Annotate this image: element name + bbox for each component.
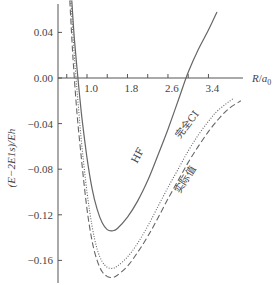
y-tick-label: −0.04 bbox=[28, 118, 54, 130]
x-tick-label: 1.0 bbox=[84, 82, 98, 94]
axes: 0.040.00−0.04−0.08−0.12−0.16 1.01.82.63.… bbox=[28, 4, 243, 283]
x-ticks: 1.01.82.63.4 bbox=[67, 74, 220, 94]
potential-energy-chart: 0.040.00−0.04−0.08−0.12−0.16 1.01.82.63.… bbox=[0, 0, 277, 285]
label-actual: 实际值 bbox=[172, 163, 198, 195]
x-tick-label: 1.8 bbox=[125, 82, 139, 94]
y-ticks: 0.040.00−0.04−0.08−0.12−0.16 bbox=[28, 26, 62, 266]
y-tick-label: −0.08 bbox=[28, 163, 54, 175]
label-full-ci: 完全CI bbox=[172, 108, 201, 140]
x-tick-label: 2.6 bbox=[165, 82, 179, 94]
y-tick-label: −0.16 bbox=[28, 254, 54, 266]
y-tick-label: 0.00 bbox=[34, 72, 54, 84]
x-tick-label: 3.4 bbox=[206, 82, 220, 94]
label-hf: HF bbox=[129, 146, 146, 165]
y-tick-label: 0.04 bbox=[34, 26, 54, 38]
curves bbox=[70, 1, 241, 278]
y-tick-label: −0.12 bbox=[28, 209, 53, 221]
curve-dashed bbox=[70, 1, 241, 278]
curve-dotted bbox=[71, 1, 233, 269]
y-axis-label: (E−2E1s)/Eh bbox=[5, 128, 18, 187]
x-axis-label: R/a0 bbox=[251, 72, 271, 87]
